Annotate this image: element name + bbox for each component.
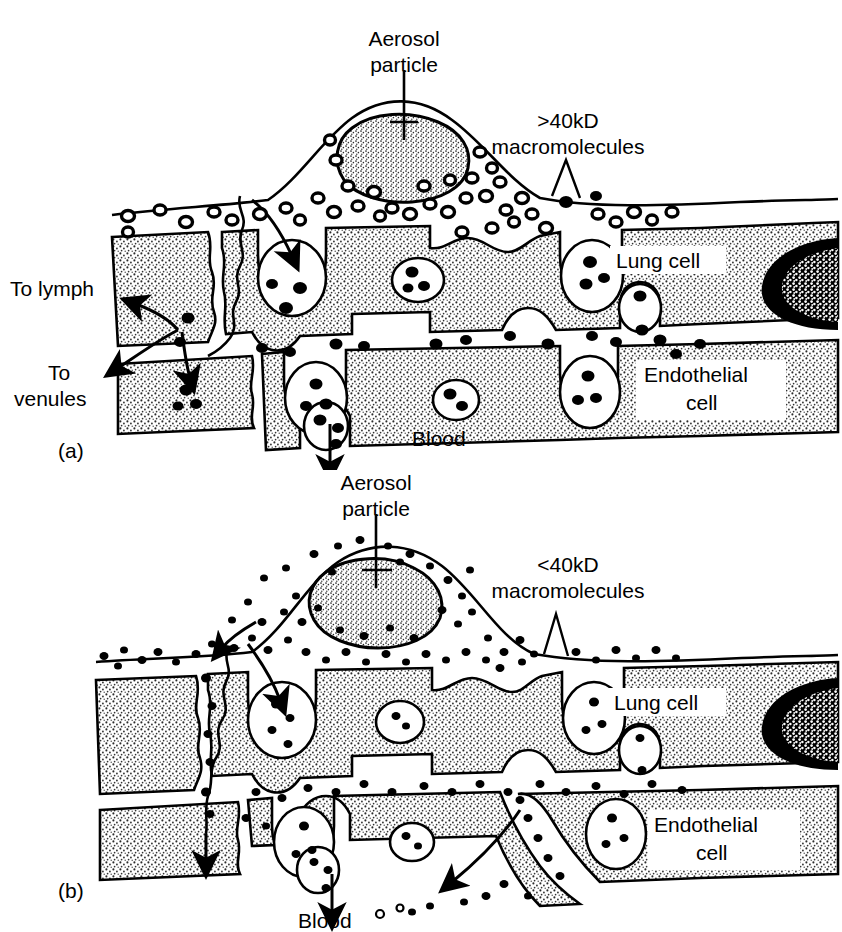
alveolar-surface-membrane-b [96, 547, 838, 662]
lung-cell-label-b: Lung cell [614, 691, 698, 714]
aerosol-particle-label-line2: particle [370, 53, 438, 76]
panel-a-illustration: Aerosol particle >40kD macromolecules To… [0, 0, 842, 470]
macromolecule-leader-b [544, 614, 568, 656]
intracellular-vesicle-endothelial [433, 380, 479, 420]
blood-label-a: Blood [412, 427, 466, 450]
endothelial-cell-label-line2-b: cell [696, 841, 728, 864]
panel-a: Aerosol particle >40kD macromolecules To… [0, 0, 842, 470]
panel-b-illustration: Aerosol particle <40kD macromolecules Lu… [0, 462, 842, 932]
caveola-endothelial-2 [560, 356, 620, 428]
macromolecule-leader-a [552, 160, 580, 198]
lung-cell-left-segment [112, 232, 215, 346]
aerosol-particle-label-line1: Aerosol [368, 27, 439, 50]
caveola-epithelial-1 [258, 240, 326, 316]
aerosol-particle-label-line1-b: Aerosol [340, 471, 411, 494]
panel-b: Aerosol particle <40kD macromolecules Lu… [0, 462, 842, 932]
lung-cell-label: Lung cell [616, 249, 700, 272]
intracellular-vesicle-endothelial-b [390, 823, 434, 861]
alveolar-surface-membrane [112, 101, 838, 215]
endothelial-cell-label-line1-b: Endothelial [654, 813, 758, 836]
figure-canvas: Aerosol particle >40kD macromolecules To… [0, 0, 842, 932]
to-venules-label-line1: To [48, 361, 70, 384]
lung-cell-left-segment-b [96, 676, 201, 794]
to-lymph-label: To lymph [10, 277, 94, 300]
macromolecule-label-line1-b: <40kD [537, 553, 598, 576]
caveola-epithelial-b1 [248, 682, 316, 758]
caveola-endothelial-b3 [586, 799, 646, 869]
endothelial-cell-label-line2: cell [686, 391, 718, 414]
macromolecule-label-line2: macromolecules [492, 135, 645, 158]
macromolecule-label-line1: >40kD [537, 109, 598, 132]
panel-letter-a: (a) [58, 439, 84, 462]
macromolecule-label-line2-b: macromolecules [492, 579, 645, 602]
aerosol-particle-label-line2-b: particle [342, 497, 410, 520]
intracellular-vesicle-epithelial-b [376, 701, 424, 743]
blood-label-b: Blood [298, 909, 352, 932]
endothelial-cell-label-line1: Endothelial [644, 363, 748, 386]
endothelial-cell-left-b [100, 802, 240, 880]
blood-particles-open-b [376, 905, 404, 919]
to-venules-label-line2: venules [14, 387, 86, 410]
intracellular-vesicle-epithelial [392, 258, 444, 302]
panel-letter-b: (b) [58, 879, 84, 902]
